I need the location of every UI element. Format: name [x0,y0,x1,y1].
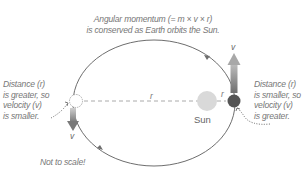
orbit-direction-arrow-top-icon [204,55,210,60]
velocity-arrow-near-icon [228,53,241,93]
pointer-left-icon [51,104,67,118]
aphelion-note-line: is smaller. [3,111,49,122]
sun-label: Sun [194,114,211,125]
perihelion-note-line: velocity (v) [254,100,301,111]
velocity-label-far: v [70,131,74,141]
distance-label-far: r [150,91,153,101]
orbit-direction-arrow-bottom-icon [97,145,103,150]
perihelion-note-line: Distance (r) [254,79,301,90]
not-to-scale-note: Not to scale! [40,157,85,168]
velocity-label-near: v [231,42,235,52]
aphelion-note: Distance (r) is greater, so velocity (v)… [3,79,49,121]
perihelion-note-line: is greater. [254,111,301,122]
title-line-2: is conserved as Earth orbits the Sun. [0,25,306,36]
velocity-arrow-far-icon [67,108,79,131]
diagram-title: Angular momentum (= m × v × r) is conser… [0,14,306,35]
aphelion-note-line: velocity (v) [3,100,49,111]
sun-icon [197,91,217,111]
earth-far-icon [70,95,83,108]
perihelion-note: Distance (r) is smaller, so velocity (v)… [254,79,301,121]
aphelion-note-line: Distance (r) [3,79,49,90]
distance-label-near: r [221,89,224,99]
perihelion-note-line: is smaller, so [254,90,301,101]
orbit-diagram: Angular momentum (= m × v × r) is conser… [0,0,306,181]
earth-near-icon [228,95,241,108]
title-line-1: Angular momentum (= m × v × r) [0,14,306,25]
aphelion-note-line: is greater, so [3,90,49,101]
